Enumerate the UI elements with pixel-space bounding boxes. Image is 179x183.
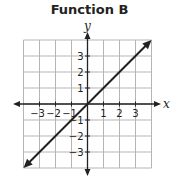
y-tick-label: 2 xyxy=(77,67,83,78)
x-tick-label: −3 xyxy=(30,108,45,119)
x-tick-label: 1 xyxy=(100,108,106,119)
y-tick-label: −2 xyxy=(69,131,84,142)
y-axis-arrow-down-icon xyxy=(85,169,91,176)
y-axis-label: y xyxy=(83,19,91,33)
y-tick-label: −3 xyxy=(69,147,84,158)
x-tick-label: 2 xyxy=(116,108,122,119)
x-axis-arrow-right-icon xyxy=(154,101,161,107)
x-tick-label: −2 xyxy=(46,108,61,119)
y-tick-label: 1 xyxy=(77,83,83,94)
x-tick-label: 3 xyxy=(132,108,138,119)
y-tick-label: 3 xyxy=(77,51,83,62)
x-axis-arrow-left-icon xyxy=(13,101,20,107)
x-axis-label: x xyxy=(163,97,170,111)
y-axis-arrow-up-icon xyxy=(85,32,91,39)
coordinate-plane: −3−2−1123321−1−2−3 x y xyxy=(0,0,179,183)
